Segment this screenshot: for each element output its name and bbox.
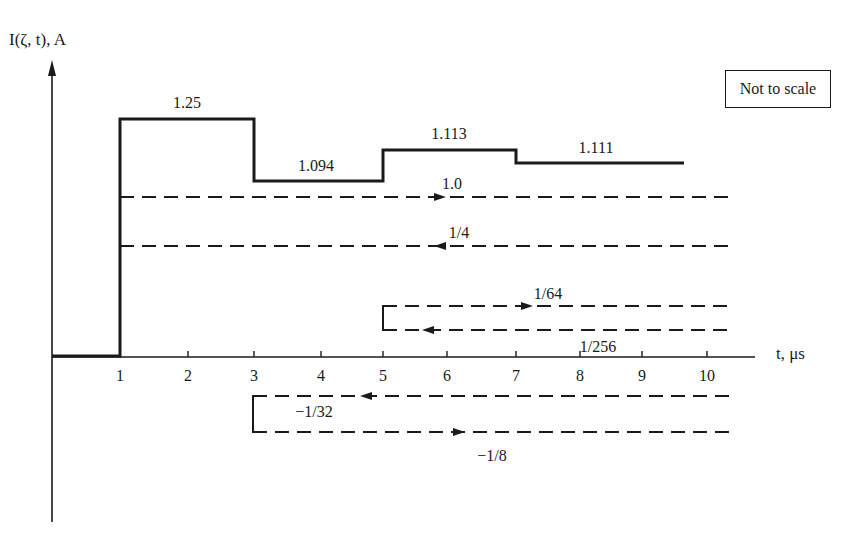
direction-arrows xyxy=(360,193,533,436)
tick-label-1: 1 xyxy=(116,367,124,384)
arrow-left-icon xyxy=(360,392,372,400)
x-axis-label: t, μs xyxy=(776,344,805,364)
not-to-scale-note: Not to scale xyxy=(725,70,831,108)
wave-label-neg-1-8: −1/8 xyxy=(477,447,506,464)
tick-label-10: 10 xyxy=(699,367,715,384)
y-axis-label: I(ζ, t), A xyxy=(9,30,66,50)
x-tick-labels: 1 2 3 4 5 6 7 8 9 10 xyxy=(116,367,715,384)
arrow-right-icon xyxy=(434,193,446,201)
x-axis: 1 2 3 4 5 6 7 8 9 10 xyxy=(52,351,755,384)
arrow-right-icon xyxy=(521,302,533,310)
y-axis-arrow-icon xyxy=(48,60,56,76)
current-waveform-figure: 1 2 3 4 5 6 7 8 9 10 1.25 1.094 1.113 1.… xyxy=(0,0,861,539)
y-axis xyxy=(48,60,56,522)
wave-label-1-0: 1.0 xyxy=(442,175,462,192)
segment-label-1-25: 1.25 xyxy=(173,94,201,111)
tick-label-9: 9 xyxy=(638,367,646,384)
segment-label-1-113: 1.113 xyxy=(431,125,466,142)
tick-label-8: 8 xyxy=(576,367,584,384)
wave-label-1-4: 1/4 xyxy=(449,224,469,241)
wave-label-neg-1-32: −1/32 xyxy=(295,403,332,420)
x-ticks xyxy=(120,351,707,357)
arrow-right-icon xyxy=(453,428,465,436)
wave-label-1-64: 1/64 xyxy=(534,285,562,302)
segment-label-1-111: 1.111 xyxy=(579,139,614,156)
wave-components xyxy=(120,197,733,433)
tick-label-5: 5 xyxy=(379,367,387,384)
tick-label-6: 6 xyxy=(443,367,451,384)
tick-label-7: 7 xyxy=(512,367,520,384)
note-text: Not to scale xyxy=(740,80,816,98)
arrow-left-icon xyxy=(422,326,434,334)
segment-label-1-094: 1.094 xyxy=(298,157,334,174)
tick-label-3: 3 xyxy=(250,367,258,384)
wave-label-1-256: 1/256 xyxy=(580,338,616,355)
tick-label-4: 4 xyxy=(317,367,325,384)
tick-label-2: 2 xyxy=(184,367,192,384)
arrow-left-icon xyxy=(434,242,446,250)
